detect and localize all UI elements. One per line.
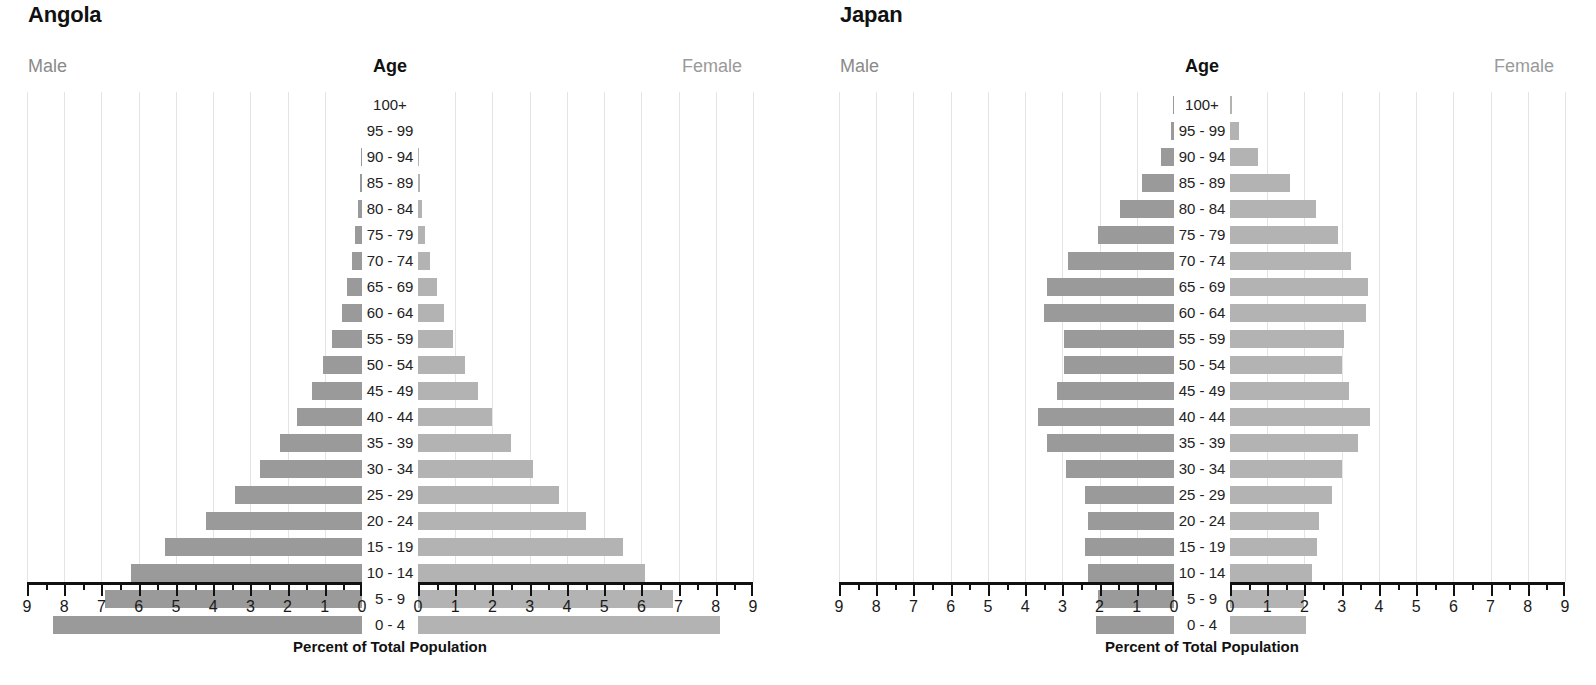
axis-tick-major xyxy=(641,582,643,596)
axis-tick-major xyxy=(1453,582,1455,596)
bar-row-female xyxy=(418,352,753,378)
axis-tick-minor xyxy=(1435,582,1437,590)
axis-tick-label: 1 xyxy=(1125,598,1149,616)
bar-female xyxy=(1230,252,1351,270)
bar-male xyxy=(260,460,362,478)
axis-tick-label: 4 xyxy=(1367,598,1391,616)
bar-row-female xyxy=(418,404,753,430)
axis-tick-minor xyxy=(1509,582,1511,590)
axis-tick-major xyxy=(1491,582,1493,596)
bar-row-female xyxy=(1230,222,1565,248)
axis-tick-major xyxy=(325,582,327,596)
bar-row-male xyxy=(839,508,1174,534)
bar-male xyxy=(1085,538,1174,556)
bar-row-female xyxy=(1230,534,1565,560)
bar-female xyxy=(418,538,623,556)
legend-age-header-angola: Age xyxy=(0,56,780,77)
bar-female xyxy=(418,356,465,374)
axis-tick-major xyxy=(567,582,569,596)
bar-female xyxy=(418,252,430,270)
age-group-label: 80 - 84 xyxy=(1174,196,1230,222)
age-group-label: 80 - 84 xyxy=(362,196,418,222)
axis-tick-label: 0 xyxy=(406,598,430,616)
axis-tick-major xyxy=(679,582,681,596)
bar-female xyxy=(1230,512,1319,530)
axis-tick-label: 3 xyxy=(1330,598,1354,616)
panel-title-japan: Japan xyxy=(840,2,903,28)
x-axis-female-angola xyxy=(418,582,753,596)
axis-tick-label: 2 xyxy=(480,598,504,616)
axis-tick-label: 5 xyxy=(592,598,616,616)
age-group-label: 50 - 54 xyxy=(1174,352,1230,378)
axis-tick-label: 6 xyxy=(629,598,653,616)
axis-tick-minor xyxy=(195,582,197,590)
axis-tick-minor xyxy=(932,582,934,590)
bar-female xyxy=(1230,330,1344,348)
bar-male xyxy=(1085,486,1174,504)
axis-tick-minor xyxy=(623,582,625,590)
axis-tick-label: 1 xyxy=(1255,598,1279,616)
bar-row-female xyxy=(1230,456,1565,482)
bar-male xyxy=(1068,252,1174,270)
axis-tick-major xyxy=(250,582,252,596)
axis-tick-minor xyxy=(969,582,971,590)
axis-tick-minor xyxy=(1360,582,1362,590)
x-axis-numbers-male-japan: 9876543210 xyxy=(839,598,1174,620)
age-group-label: 50 - 54 xyxy=(362,352,418,378)
bar-male xyxy=(342,304,362,322)
axis-tick-minor xyxy=(437,582,439,590)
age-group-label: 95 - 99 xyxy=(362,118,418,144)
age-group-label: 25 - 29 xyxy=(362,482,418,508)
age-group-label: 65 - 69 xyxy=(1174,274,1230,300)
bar-row-male xyxy=(839,404,1174,430)
axis-tick-label: 2 xyxy=(1292,598,1316,616)
axis-tick-minor xyxy=(306,582,308,590)
bar-row-female xyxy=(1230,118,1565,144)
axis-tick-label: 5 xyxy=(164,598,188,616)
axis-tick-major xyxy=(716,582,718,596)
bar-male xyxy=(355,226,362,244)
legend-age-header-japan: Age xyxy=(812,56,1592,77)
axis-tick-major xyxy=(1304,582,1306,596)
bar-row-male xyxy=(27,404,362,430)
bar-row-male xyxy=(27,170,362,196)
axis-tick-minor xyxy=(1249,582,1251,590)
bar-row-male xyxy=(27,222,362,248)
age-group-label: 15 - 19 xyxy=(1174,534,1230,560)
axis-tick-label: 0 xyxy=(1162,598,1186,616)
bar-female xyxy=(418,174,420,192)
bar-male xyxy=(1098,226,1174,244)
axis-tick-minor xyxy=(1398,582,1400,590)
age-group-label: 55 - 59 xyxy=(1174,326,1230,352)
axis-tick-label: 1 xyxy=(313,598,337,616)
bar-row-male xyxy=(839,352,1174,378)
axis-tick-major xyxy=(1342,582,1344,596)
bar-row-male xyxy=(839,222,1174,248)
bar-row-female xyxy=(1230,196,1565,222)
axis-tick-major xyxy=(455,582,457,596)
female-half-angola xyxy=(418,92,753,582)
bar-row-male xyxy=(27,456,362,482)
axis-tick-label: 8 xyxy=(864,598,888,616)
axis-tick-minor xyxy=(343,582,345,590)
axis-tick-label: 7 xyxy=(901,598,925,616)
bar-female xyxy=(1230,122,1239,140)
axis-tick-minor xyxy=(120,582,122,590)
bar-male xyxy=(323,356,362,374)
bar-female xyxy=(418,148,419,166)
bar-row-female xyxy=(418,196,753,222)
axis-tick-major xyxy=(839,582,841,596)
axis-tick-label: 8 xyxy=(1516,598,1540,616)
bar-male xyxy=(1161,148,1174,166)
bar-row-male xyxy=(839,378,1174,404)
axis-tick-minor xyxy=(734,582,736,590)
bar-female xyxy=(1230,408,1370,426)
bar-row-male xyxy=(27,508,362,534)
age-group-label: 75 - 79 xyxy=(1174,222,1230,248)
axis-tick-minor xyxy=(1472,582,1474,590)
male-half-angola xyxy=(27,92,362,582)
age-group-label: 65 - 69 xyxy=(362,274,418,300)
legend-female-angola: Female xyxy=(682,56,742,77)
bar-row-male xyxy=(839,326,1174,352)
bar-female xyxy=(1230,434,1358,452)
